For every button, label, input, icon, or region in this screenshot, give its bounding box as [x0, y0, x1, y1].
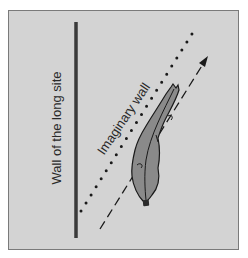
swimmer-feet [143, 200, 150, 207]
long-side-wall-label: Wall of the long site [49, 58, 65, 198]
arrow-head-icon [199, 56, 208, 67]
